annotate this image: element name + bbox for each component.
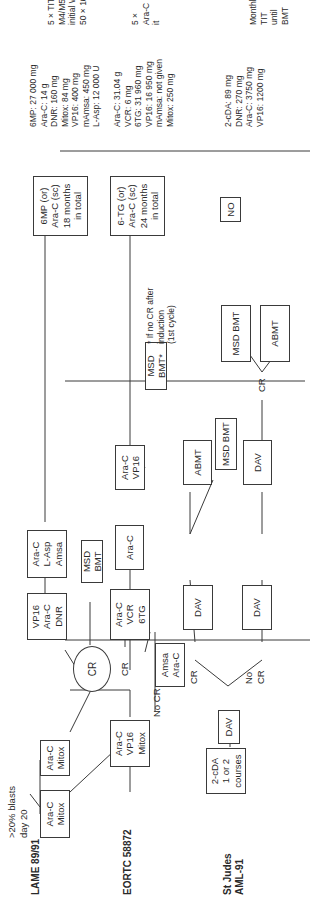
stjude-cns: Monthly TIT until BMT (248, 0, 290, 25)
stjude-cr-label: CR (188, 670, 200, 684)
eortc-consolidation-box-3: Ara-C VP16 (115, 445, 145, 490)
eortc-cr-label: CR (119, 662, 131, 676)
eortc-consolidation-box-1: Ara-C VCR 6TG (110, 589, 150, 640)
stjude-dav-box-3: DAV (243, 440, 272, 485)
eortc-msd-bmt-box: MSD BMT* (145, 342, 167, 390)
stjude-dav-box-nocr: DAV (242, 585, 272, 630)
lame-cns: 5 × TIT only in M4/M5 cases or initial W… (46, 0, 88, 25)
stjude-abmt-box: ABMT (183, 440, 212, 485)
lame-consolidation-box-2: Ara-C L-Asp Amsa (27, 530, 67, 578)
protocol-label-eortc: EORTC 58872 (122, 829, 134, 895)
protocol-label-lame: LAME 89/91 (30, 839, 42, 895)
protocol-diagram: LAME 89/91 EORTC 58872 St Judes AML-91 >… (0, 0, 315, 922)
eortc-consolidation-box-2: Ara-C (115, 525, 144, 570)
stjude-msd-bmt-box: MSD BMT (215, 418, 237, 470)
eortc-maintenance-box: 6-TG (or) Ara-C (sc) 24 months in total (110, 176, 165, 236)
stjude-doses: 2-cDA: 89 mg DNR: 270 mg Ara-C: 3750 mg … (223, 67, 265, 127)
lame-msd-bmt-box: MSD BMT (81, 540, 103, 583)
eortc-induction-box: Ara-C VP16 Mitox (110, 720, 150, 767)
lame-induction-box-2: Ara-C Mitox (40, 740, 70, 776)
stjude-maintenance-box: NO (220, 197, 241, 222)
lame-induction-box-1: Ara-C Mitox (40, 790, 70, 838)
lame-cr-ellipse: CR (73, 646, 111, 692)
eortc-no-cr-label: No CR (151, 688, 163, 717)
stjude-no-cr-label: No CR (243, 670, 266, 684)
stjude-msd-bmt-box-2: MSD BMT (221, 305, 251, 362)
stjude-window-box: 2-cDA 1 or 2 courses (206, 748, 246, 794)
stjude-abmt-box-2: ABMT (260, 305, 290, 362)
lame-blasts-note: >20% blasts day 20 (6, 786, 29, 838)
eortc-cns: 5 × Ara-C it (130, 0, 162, 25)
stjude-induction-box: DAV (218, 710, 240, 744)
protocol-label-stjude: St Judes AML-91 (222, 853, 246, 895)
eortc-footnote: * If no CR after induction (1st cycle) (145, 288, 177, 344)
lame-consolidation-box-1: VP16 Ara-C DNR (27, 593, 67, 640)
lame-doses: 6MP: 27 000 mg Ara-C: 14 g DNR: 160 mg M… (28, 65, 102, 127)
stjude-dav-box-cr: DAV (183, 585, 213, 630)
eortc-salvage-box: Amsa Ara-C (155, 643, 185, 687)
eortc-doses: Ara-C: 31.04 g VCR: 6 mg 6TG: 31 960 mg … (112, 59, 175, 127)
stjude-cr2-label: CR (256, 378, 268, 392)
lame-maintenance-box: 6MP (or) Ara-C (sc) 18 months in total (33, 176, 88, 236)
